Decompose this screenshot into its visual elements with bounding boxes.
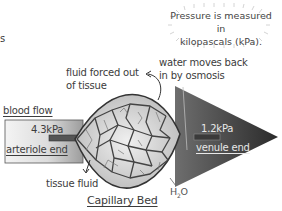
pressure-note-line2: kilopascals (kPa). (166, 35, 276, 48)
arteriole-pressure-label: 4.3kPa (31, 124, 63, 136)
pressure-note-line1: Pressure is measured in (166, 9, 276, 35)
h2o-label: H2O (170, 186, 188, 202)
h2o-o: O (181, 186, 188, 197)
fluid-forced-out-label-line1: fluid forced out (66, 67, 139, 79)
fluid-forced-out-label-line2: of tissue (66, 80, 107, 92)
venule-end-label: venule end (196, 142, 250, 154)
capillary-bed-body (75, 95, 180, 189)
left-edge-fragment-text: s (0, 33, 5, 45)
blood-flow-label: blood flow (3, 105, 53, 117)
water-moves-back-label-line1: water moves back (159, 57, 248, 69)
pressure-note: Pressure is measured in kilopascals (kPa… (166, 9, 276, 48)
water-moves-back-label-line2: in by osmosis (159, 70, 225, 82)
venule-pressure-label: 1.2kPa (201, 123, 233, 135)
arteriole-end-label: arteriole end (6, 144, 68, 156)
venule-block (175, 86, 278, 187)
h2o-h: H (170, 186, 177, 197)
tissue-fluid-label: tissue fluid (46, 178, 98, 190)
diagram-title: Capillary Bed (87, 194, 158, 208)
